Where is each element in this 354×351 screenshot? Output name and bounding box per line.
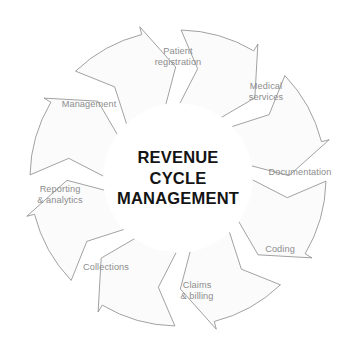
page-title: REVENUECYCLEMANAGEMENT	[117, 147, 239, 209]
revenue-cycle-diagram: PatientregistrationMedicalservicesDocume…	[0, 0, 354, 351]
center-title-line: CYCLE	[117, 168, 239, 189]
center-title-line: REVENUE	[117, 147, 239, 168]
center-title-line: MANAGEMENT	[117, 188, 239, 209]
center-hub: REVENUECYCLEMANAGEMENT	[103, 103, 253, 253]
